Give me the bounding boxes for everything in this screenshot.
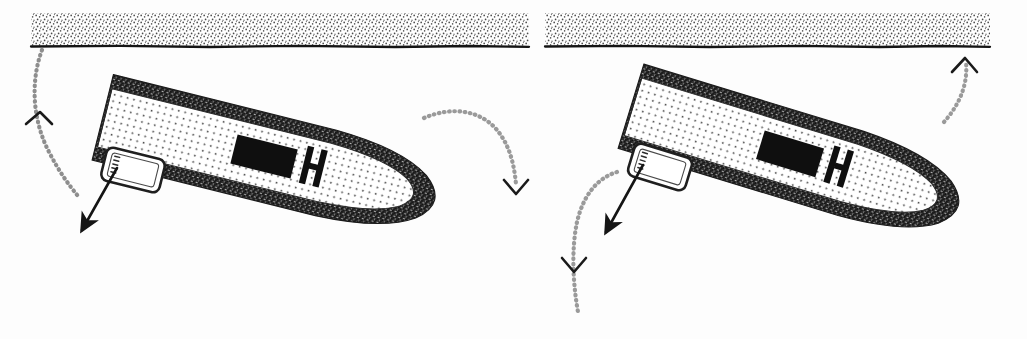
dock-band (31, 13, 529, 47)
dock-edge-line (545, 46, 990, 47)
dock-edge-line (31, 46, 529, 47)
dock-band (545, 13, 990, 47)
figure-root: Boat docking maneuver diagram Two-panel … (0, 0, 1027, 339)
diagram-canvas (0, 0, 1027, 339)
